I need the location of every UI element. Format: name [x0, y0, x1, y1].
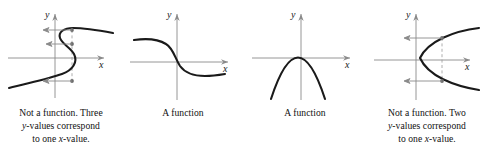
caption-line-2: y-values correspond: [366, 119, 488, 132]
caption-line-3: to one x-value.: [0, 132, 122, 145]
function-curve: [271, 58, 325, 100]
y-axis-label: y: [405, 9, 411, 20]
panel-sideways-s-curve: x y Not a function. Three y-values corre…: [0, 0, 122, 168]
y-axis-label: y: [166, 9, 172, 20]
caption-line-3-pre: to one: [32, 133, 58, 144]
graph-downward-parabola: x y: [244, 0, 366, 104]
caption-line-2: y-values correspond: [0, 119, 122, 132]
vertical-line-test-figure: x y Not a function. Three y-values corre…: [0, 0, 488, 168]
caption-line-1: A function: [122, 106, 244, 119]
caption-line-1: Not a function. Two: [366, 106, 488, 119]
y-axis-label: y: [290, 9, 296, 20]
panel-caption: Not a function. Two y-values correspond …: [366, 106, 488, 146]
y-axis-label: y: [44, 9, 50, 20]
function-curve: [134, 39, 225, 76]
x-axis-label: x: [464, 61, 470, 72]
caption-line-1: Not a function. Three: [0, 106, 122, 119]
panel-rightward-parabola: x y Not a function. Two y-values corresp…: [366, 0, 488, 168]
panel-caption: A function: [244, 106, 366, 119]
caption-line-3: to one x-value.: [366, 132, 488, 145]
caption-line-3-rest: -value.: [429, 133, 456, 144]
x-axis-label: x: [344, 59, 350, 70]
panel-decreasing-s-curve: x y A function: [122, 0, 244, 168]
x-axis-label: x: [98, 59, 104, 70]
panel-caption: Not a function. Three y-values correspon…: [0, 106, 122, 146]
caption-line-2-rest: -values correspond: [26, 120, 100, 131]
graph-decreasing-s-curve: x y: [122, 0, 244, 104]
graph-rightward-parabola: x y: [366, 0, 488, 104]
caption-line-3-pre: to one: [398, 133, 424, 144]
x-axis-label: x: [222, 63, 228, 74]
caption-line-1: A function: [244, 106, 366, 119]
panel-caption: A function: [122, 106, 244, 119]
caption-line-2-rest: -values correspond: [392, 120, 466, 131]
caption-line-3-rest: -value.: [63, 133, 90, 144]
panel-downward-parabola: x y A function: [244, 0, 366, 168]
graph-sideways-s-curve: x y: [0, 0, 122, 104]
